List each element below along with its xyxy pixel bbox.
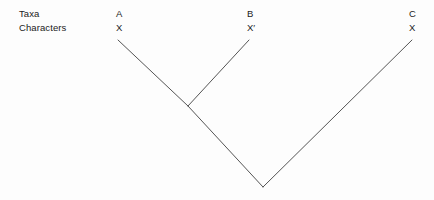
branch-B	[188, 40, 249, 106]
branch-group	[118, 40, 412, 187]
branch-A	[118, 40, 188, 106]
phylogenetic-tree-diagram: Taxa Characters A X B X′ C X	[0, 0, 434, 200]
tree-branches-canvas	[0, 0, 434, 200]
branch-C	[263, 40, 412, 187]
branch-AB-root	[188, 106, 263, 187]
